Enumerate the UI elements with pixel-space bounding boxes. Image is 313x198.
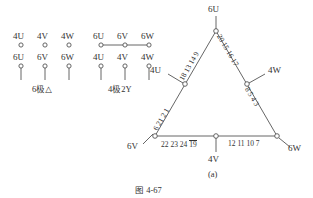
- lead-stub-4w-right: [249, 74, 265, 83]
- terminal-label-4w-star: 4W: [141, 53, 154, 62]
- diagram-vector-layer: [0, 0, 313, 198]
- triangle-tap-node-left[interactable]: [183, 82, 188, 87]
- terminal-label-6v-star: 6V: [117, 32, 128, 41]
- triangle-tap-node-bottom[interactable]: [214, 134, 219, 139]
- terminal-label-4v-delta: 4V: [37, 32, 48, 41]
- terminal-label-4v-star: 4V: [117, 53, 128, 62]
- edge-numbers-bottom-left-plain: 22 23 24: [161, 140, 187, 149]
- triangle-node-bottom-left[interactable]: [153, 134, 158, 139]
- edge-numbers-bottom-left-overlined: 19: [189, 140, 197, 149]
- lead-stub-6v-bottom-left: [143, 134, 153, 144]
- triangle-node-bottom-right[interactable]: [275, 134, 280, 139]
- triangle-node-top[interactable]: [214, 29, 219, 34]
- terminal-label-4w-delta: 4W: [61, 32, 74, 41]
- terminal-label-6w-star: 6W: [141, 32, 154, 41]
- terminal-dot-4v-delta[interactable]: [43, 43, 47, 47]
- terminal-dot-6w-delta[interactable]: [67, 64, 71, 68]
- triangle-label-6w-bottom-right: 6W: [288, 144, 301, 153]
- terminal-dot-4u-delta[interactable]: [19, 43, 23, 47]
- triangle-label-6u-top: 6U: [208, 5, 219, 14]
- edge-numbers-bottom-left: 22 23 24 19: [161, 140, 197, 149]
- terminal-dot-6u-delta[interactable]: [19, 64, 23, 68]
- terminal-label-6u-delta: 6U: [13, 53, 24, 62]
- figure-caption: 图 4-67: [135, 186, 162, 195]
- edge-numbers-bottom-right: 12 11 10 7: [228, 140, 260, 148]
- terminal-dot-4w-delta[interactable]: [67, 43, 71, 47]
- block-label-star: 4极2Y: [108, 85, 132, 94]
- terminal-dot-6v-delta[interactable]: [43, 64, 47, 68]
- terminal-dot-6u-star[interactable]: [99, 43, 103, 47]
- terminal-label-4u-delta: 4U: [13, 32, 24, 41]
- terminal-dot-6v-star[interactable]: [123, 43, 127, 47]
- subfigure-label: (a): [208, 170, 217, 179]
- terminal-label-6u-star: 6U: [93, 32, 104, 41]
- terminal-label-6w-delta: 6W: [61, 53, 74, 62]
- triangle-label-4u-left: 4U: [150, 66, 161, 75]
- triangle-label-4w-right: 4W: [268, 66, 281, 75]
- terminal-dot-6w-star[interactable]: [147, 43, 151, 47]
- terminal-label-4u-star: 4U: [93, 53, 104, 62]
- terminal-dot-4u-star[interactable]: [99, 64, 103, 68]
- triangle-label-6v-bottom-left: 6V: [127, 142, 138, 151]
- terminal-dot-4v-star[interactable]: [123, 64, 127, 68]
- terminal-label-6v-delta: 6V: [37, 53, 48, 62]
- triangle-label-4v-bottom: 4V: [208, 155, 219, 164]
- figure-canvas: 4U 4V 4W 6U 6V 6W 6极△ 6U 6V 6W 4U 4V 4W …: [0, 0, 313, 198]
- block-label-delta: 6极△: [32, 85, 52, 94]
